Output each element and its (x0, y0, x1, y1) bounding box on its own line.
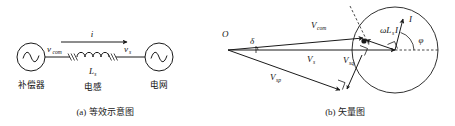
vector-vcom-label: V com (311, 20, 326, 31)
inductor-name-label: 电感 (84, 81, 102, 92)
vector-vs-label: V s (307, 54, 315, 65)
current-label: i (91, 29, 94, 39)
svg-text:ωL: ωL (380, 25, 391, 35)
vector-reactance-drop (366, 40, 395, 50)
vector-vsp-label: V sp (270, 72, 281, 83)
panel-a-caption: (a) 等效示意图 (76, 106, 133, 117)
figure-svg: 补偿器 v com (0, 0, 455, 126)
vector-vcom (228, 38, 363, 50)
svg-text:L: L (88, 66, 94, 76)
svg-text:s: s (94, 71, 96, 77)
svg-text:s: s (392, 30, 394, 36)
compensator-label: 补偿器 (18, 79, 45, 90)
svg-text:sq: sq (349, 60, 354, 66)
panel-a-equivalent-circuit: 补偿器 v com (17, 29, 173, 117)
svg-text:com: com (53, 49, 62, 55)
voltage-vcom-label: v com (47, 44, 62, 55)
svg-text:com: com (317, 25, 326, 31)
angle-delta-label: δ (250, 36, 255, 46)
svg-text:I: I (394, 25, 399, 35)
vector-current-label: I (408, 14, 413, 24)
ac-source-grid (145, 43, 173, 71)
svg-text:sp: sp (276, 77, 281, 83)
angle-phi-arc (401, 33, 414, 51)
svg-text:s: s (313, 59, 315, 65)
svg-text:v: v (47, 44, 51, 54)
voltage-vs-label: v s (124, 44, 131, 55)
panel-b-vector-diagram: O V s V com δ V sp (222, 6, 440, 117)
svg-text:v: v (124, 44, 128, 54)
svg-text:s: s (129, 49, 131, 55)
grid-label: 电网 (150, 79, 168, 90)
inductor-symbol-label: L s (88, 66, 96, 77)
figure-container: 补偿器 v com (0, 0, 455, 126)
right-angle-marker-lower (338, 80, 345, 90)
inductor-terminal-left (68, 54, 78, 61)
node-marker (361, 38, 366, 43)
vector-vsp (228, 50, 340, 90)
vector-reactance-drop-label: ωL s I (380, 25, 399, 36)
panel-b-caption: (b) 矢量图 (325, 106, 365, 117)
angle-phi-label: φ (419, 35, 424, 45)
inductor-coil (77, 52, 109, 57)
origin-label: O (222, 29, 229, 39)
ac-source-compensator (17, 43, 45, 71)
